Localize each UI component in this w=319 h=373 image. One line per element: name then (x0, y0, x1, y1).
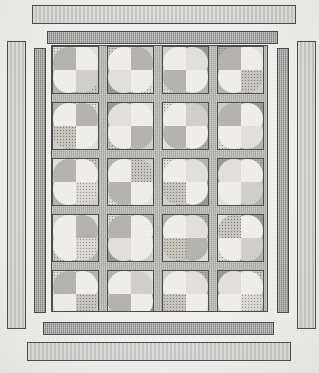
block-quadrant-br (76, 238, 99, 261)
orange-peel-block (52, 270, 99, 312)
block-quadrant-tl (53, 215, 76, 238)
block-quadrant-bl (218, 238, 241, 261)
orange-peel-block (162, 158, 209, 206)
block-quadrant-tr (186, 271, 209, 294)
block-quadrant-tr (241, 103, 264, 126)
block-quadrant-tl (163, 47, 186, 70)
block-quadrant-tl (218, 47, 241, 70)
orange-peel-block (52, 214, 99, 262)
block-quadrant-tr (241, 159, 264, 182)
block-quadrant-tl (108, 103, 131, 126)
outer-bottom-bar (27, 342, 291, 361)
inner-top-bar (47, 31, 278, 44)
orange-peel-block (52, 102, 99, 150)
block-quadrant-tr (186, 215, 209, 238)
orange-peel-block (162, 102, 209, 150)
block-quadrant-bl (108, 238, 131, 261)
block-quadrant-tl (163, 103, 186, 126)
block-quadrant-tr (241, 47, 264, 70)
block-quadrant-br (186, 182, 209, 205)
orange-peel-block (107, 102, 154, 150)
block-quadrant-br (76, 70, 99, 93)
block-quadrant-tr (186, 47, 209, 70)
block-quadrant-tl (163, 271, 186, 294)
orange-peel-block (107, 46, 154, 94)
block-quadrant-tr (131, 159, 154, 182)
quarter-circle-petal (53, 294, 76, 312)
block-quadrant-br (241, 182, 264, 205)
block-quadrant-tr (76, 47, 99, 70)
quarter-circle-petal (163, 294, 186, 312)
block-quadrant-tl (218, 159, 241, 182)
block-quadrant-br (76, 126, 99, 149)
block-quadrant-tl (53, 103, 76, 126)
block-quadrant-br (76, 182, 99, 205)
block-quadrant-tl (53, 47, 76, 70)
block-quadrant-tr (131, 271, 154, 294)
orange-peel-block (52, 158, 99, 206)
block-quadrant-bl (53, 182, 76, 205)
block-quadrant-bl (163, 126, 186, 149)
block-quadrant-tl (218, 103, 241, 126)
orange-peel-block (217, 214, 264, 262)
orange-peel-block (217, 46, 264, 94)
block-quadrant-br (186, 126, 209, 149)
outer-right-bar (297, 41, 316, 329)
block-quadrant-bl (108, 182, 131, 205)
block-quadrant-tl (163, 159, 186, 182)
quarter-circle-petal (218, 294, 241, 312)
block-quadrant-tl (53, 159, 76, 182)
block-quadrant-tr (76, 215, 99, 238)
block-quadrant-bl (53, 126, 76, 149)
block-quadrant-bl (163, 294, 186, 312)
block-quadrant-br (131, 126, 154, 149)
quilt-panel (51, 45, 268, 312)
block-quadrant-tl (163, 215, 186, 238)
quarter-circle-petal (241, 294, 264, 312)
block-quadrant-bl (218, 294, 241, 312)
block-quadrant-br (131, 70, 154, 93)
orange-peel-block (162, 270, 209, 312)
block-quadrant-br (241, 294, 264, 312)
inner-right-bar (277, 48, 289, 313)
block-quadrant-bl (53, 238, 76, 261)
orange-peel-block (162, 46, 209, 94)
block-quadrant-bl (53, 70, 76, 93)
block-quadrant-tr (76, 103, 99, 126)
block-quadrant-tl (108, 215, 131, 238)
block-quadrant-tr (76, 271, 99, 294)
block-quadrant-br (131, 294, 154, 312)
block-quadrant-bl (163, 70, 186, 93)
quilt-diagram-canvas (0, 0, 319, 373)
block-quadrant-tr (241, 271, 264, 294)
block-quadrant-br (131, 182, 154, 205)
outer-top-bar (32, 5, 296, 24)
orange-peel-block (217, 158, 264, 206)
block-quadrant-tl (218, 271, 241, 294)
quarter-circle-petal (131, 294, 154, 312)
block-quadrant-tl (218, 215, 241, 238)
block-quadrant-br (186, 238, 209, 261)
inner-left-bar (34, 48, 46, 313)
block-quadrant-tl (108, 271, 131, 294)
block-quadrant-bl (218, 126, 241, 149)
outer-left-bar (7, 41, 26, 329)
inner-bottom-bar (43, 322, 274, 335)
block-quadrant-tl (108, 159, 131, 182)
block-quadrant-bl (163, 238, 186, 261)
orange-peel-block (107, 158, 154, 206)
orange-peel-block (217, 102, 264, 150)
quarter-circle-petal (76, 294, 99, 312)
quarter-circle-petal (108, 294, 131, 312)
block-quadrant-br (241, 70, 264, 93)
orange-peel-block (217, 270, 264, 312)
quarter-circle-petal (186, 294, 209, 312)
block-quadrant-br (131, 238, 154, 261)
block-quadrant-bl (53, 294, 76, 312)
block-quadrant-bl (163, 182, 186, 205)
block-quadrant-tr (241, 215, 264, 238)
block-quadrant-tr (186, 103, 209, 126)
orange-peel-block (52, 46, 99, 94)
block-quadrant-bl (218, 70, 241, 93)
block-quadrant-tr (131, 215, 154, 238)
